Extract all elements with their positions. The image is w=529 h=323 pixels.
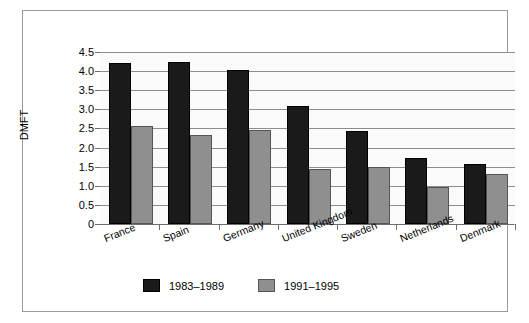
- plot-area: [100, 52, 515, 224]
- x-tick-mark: [159, 224, 160, 230]
- bar-france-series-0: [109, 63, 131, 224]
- legend-swatch-1: [258, 279, 275, 292]
- y-tick-label: 3.0: [60, 104, 94, 115]
- bar-spain-series-1: [190, 135, 212, 224]
- legend-swatch-0: [143, 279, 160, 292]
- legend-entry-0: 1983–1989: [143, 279, 224, 292]
- y-tick-label: 4.0: [60, 66, 94, 77]
- x-tick-mark: [278, 224, 279, 230]
- y-tick-label: 3.5: [60, 85, 94, 96]
- y-tick-mark: [95, 90, 100, 91]
- bar-sweden-series-1: [368, 167, 390, 224]
- legend-label-0: 1983–1989: [169, 280, 224, 292]
- y-tick-label: 2.5: [60, 123, 94, 134]
- legend-entry-1: 1991–1995: [258, 279, 339, 292]
- y-tick-mark: [95, 186, 100, 187]
- x-tick-mark: [219, 224, 220, 230]
- bar-united-kingdom-series-0: [287, 106, 309, 224]
- legend-label-1: 1991–1995: [284, 280, 339, 292]
- x-tick-mark: [515, 224, 516, 230]
- y-tick-label: 0.5: [60, 200, 94, 211]
- x-tick-mark: [337, 224, 338, 230]
- bar-germany-series-0: [227, 70, 249, 224]
- bar-netherlands-series-0: [405, 158, 427, 224]
- gridline: [100, 71, 515, 72]
- x-category-label-spain: Spain: [161, 223, 190, 244]
- y-axis-tick-labels: 00.51.01.52.02.53.03.54.04.5: [52, 52, 94, 224]
- bar-denmark-series-0: [464, 164, 486, 224]
- gridline: [100, 90, 515, 91]
- bar-france-series-1: [131, 126, 153, 224]
- y-tick-mark: [95, 205, 100, 206]
- y-tick-mark: [95, 128, 100, 129]
- bar-germany-series-1: [249, 130, 271, 224]
- chart-legend: 1983–19891991–1995: [143, 279, 339, 292]
- y-tick-label: 1.0: [60, 181, 94, 192]
- y-tick-label: 0: [60, 219, 94, 230]
- chart-frame: DMFT 00.51.01.52.02.53.03.54.04.5 France…: [22, 10, 508, 312]
- gridline: [100, 52, 515, 53]
- y-tick-label: 4.5: [60, 47, 94, 58]
- bar-spain-series-0: [168, 62, 190, 224]
- y-axis-title: DMFT: [18, 110, 30, 141]
- x-tick-mark: [396, 224, 397, 230]
- y-tick-mark: [95, 109, 100, 110]
- y-tick-mark: [95, 167, 100, 168]
- y-tick-label: 2.0: [60, 143, 94, 154]
- x-tick-mark: [456, 224, 457, 230]
- y-tick-mark: [95, 224, 100, 225]
- y-tick-label: 1.5: [60, 162, 94, 173]
- y-tick-mark: [95, 71, 100, 72]
- y-tick-mark: [95, 148, 100, 149]
- y-tick-mark: [95, 52, 100, 53]
